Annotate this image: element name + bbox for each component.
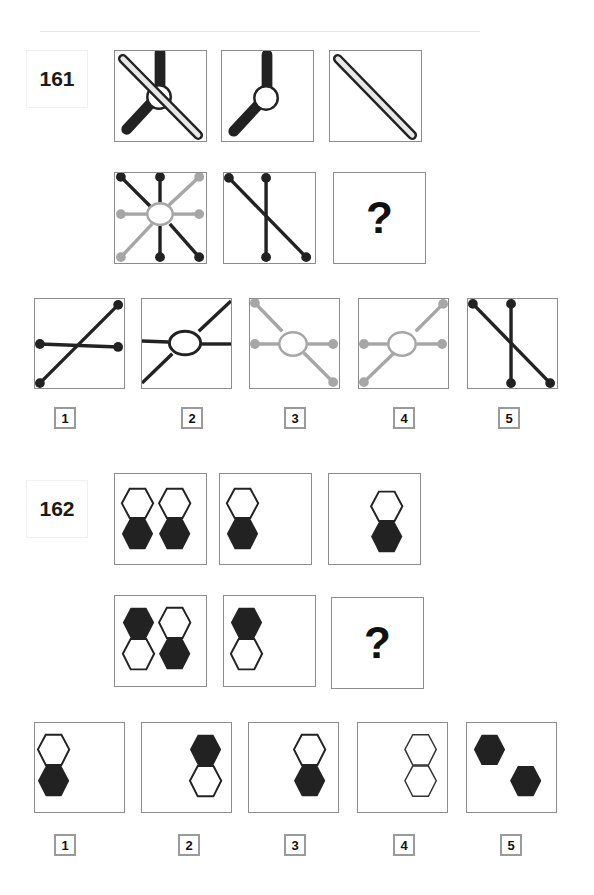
crossed-lines-icon (224, 173, 315, 263)
puzzle-number-161: 161 (26, 50, 88, 108)
puzzle-number-162: 162 (26, 480, 88, 538)
option-hexagons-outline-icon (358, 723, 447, 812)
question-mark: ? (332, 598, 423, 688)
two-hexagons-inverted-icon (224, 596, 315, 686)
puzzle-162-unknown: ? (331, 597, 424, 689)
puzzle-162-option-1[interactable] (34, 722, 125, 813)
option-gray-hub-mirrored-icon (359, 299, 448, 388)
two-hexagons-icon (220, 474, 311, 564)
puzzle-161-figure-1 (114, 50, 207, 142)
bar-over-joint-icon (115, 51, 206, 141)
option-hub-lines-icon (142, 299, 231, 388)
puzzle-162-figure-5 (223, 595, 316, 687)
option-5-label[interactable]: 5 (500, 834, 522, 856)
puzzle-161-option-2[interactable] (141, 298, 232, 389)
puzzle-161-figure-3 (329, 50, 422, 142)
puzzle-161-option-5[interactable] (467, 298, 558, 389)
puzzle-162-figure-4 (114, 595, 207, 687)
option-hexagons-right-inverted-icon (142, 723, 231, 812)
joint-icon (222, 51, 313, 141)
option-1-label[interactable]: 1 (54, 834, 76, 856)
puzzle-161-figure-5 (223, 172, 316, 264)
option-hexagons-left-icon (35, 723, 124, 812)
option-2-label[interactable]: 2 (178, 834, 200, 856)
four-hexagons-checker-icon (115, 596, 206, 686)
option-4-label[interactable]: 4 (393, 407, 415, 429)
option-crossed-lines-icon (468, 299, 557, 388)
option-hexagons-separated-icon (467, 723, 556, 812)
option-crossed-lines-icon (35, 299, 124, 388)
puzzle-162-option-5[interactable] (466, 722, 557, 813)
option-5-label[interactable]: 5 (498, 407, 520, 429)
puzzle-161-unknown: ? (333, 172, 426, 264)
option-2-label[interactable]: 2 (181, 407, 203, 429)
option-3-label[interactable]: 3 (284, 834, 306, 856)
option-gray-hub-icon (250, 299, 339, 388)
puzzle-162-figure-1 (114, 473, 207, 565)
star-hub-icon (115, 173, 206, 263)
puzzle-161-option-4[interactable] (358, 298, 449, 389)
puzzle-162-option-3[interactable] (248, 722, 339, 813)
page-divider (40, 31, 480, 32)
puzzle-162-figure-3 (328, 473, 421, 565)
option-hexagons-right-icon (249, 723, 338, 812)
question-mark: ? (334, 173, 425, 263)
option-4-label[interactable]: 4 (393, 834, 415, 856)
four-hexagons-icon (115, 474, 206, 564)
puzzle-161-option-1[interactable] (34, 298, 125, 389)
diagonal-bar-icon (330, 51, 421, 141)
puzzle-162-option-2[interactable] (141, 722, 232, 813)
two-hexagons-right-icon (329, 474, 420, 564)
puzzle-161-option-3[interactable] (249, 298, 340, 389)
puzzle-162-option-4[interactable] (357, 722, 448, 813)
puzzle-161-figure-2 (221, 50, 314, 142)
puzzle-162-figure-2 (219, 473, 312, 565)
option-3-label[interactable]: 3 (284, 407, 306, 429)
option-1-label[interactable]: 1 (54, 407, 76, 429)
puzzle-161-figure-4 (114, 172, 207, 264)
